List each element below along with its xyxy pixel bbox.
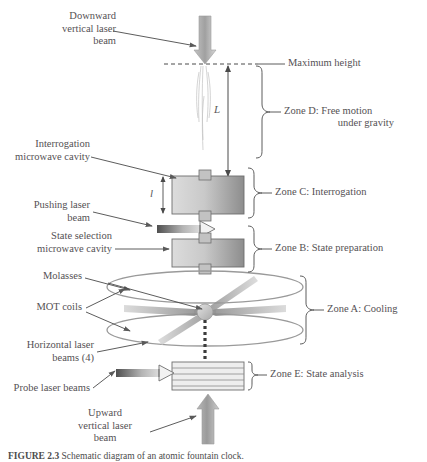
pushing-laser-beam-label: Pushing laser beam <box>8 199 90 224</box>
zone-d-label-line2: under gravity <box>284 117 394 130</box>
atom-trajectory-graphic <box>197 66 211 150</box>
figure-page: Downward vertical laser beam Maximum hei… <box>0 0 427 462</box>
leader-upward-beam <box>150 416 196 432</box>
zone-a-bracket <box>300 276 314 344</box>
leader-interrogation-cavity <box>91 157 176 178</box>
figure-caption: FIGURE 2.3 Schematic diagram of an atomi… <box>8 451 244 461</box>
zone-c-label: Zone C: Interrogation <box>275 186 367 199</box>
mot-coils-label: MOT coils <box>10 301 82 314</box>
downward-laser-beam-label: Downward vertical laser beam <box>12 10 116 48</box>
state-selection-cavity-label: State selection microwave cavity <box>6 230 112 255</box>
downward-laser-beam-graphic <box>194 16 216 64</box>
leader-downward-beam <box>113 31 196 46</box>
molasses-label: Molasses <box>14 270 82 283</box>
state-selection-cavity-graphic <box>172 233 244 274</box>
molasses-ball-graphic <box>197 304 213 320</box>
interrogation-cavity-graphic <box>172 170 244 221</box>
zone-d-label-line1: Zone D: Free motion <box>284 105 372 118</box>
L-dimension-label: L <box>214 103 220 115</box>
zone-b-bracket <box>248 226 262 272</box>
leader-horizontal-beams <box>97 342 148 352</box>
zone-c-bracket <box>248 168 262 218</box>
probe-laser-beam-graphic <box>116 365 174 381</box>
zone-e-bracket <box>248 362 258 390</box>
horizontal-laser-beams-label: Horizontal laser beams (4) <box>2 339 94 364</box>
figure-caption-text: Schematic diagram of an atomic fountain … <box>62 451 244 461</box>
leader-mot-coils-top <box>86 289 125 308</box>
interrogation-cavity-label: Interrogation microwave cavity <box>4 138 90 163</box>
upward-laser-beam-label: Upward vertical laser beam <box>62 407 148 445</box>
zone-d-bracket <box>256 66 270 158</box>
probe-laser-beams-label: Probe laser beams <box>2 382 90 395</box>
upward-laser-beam-graphic <box>197 394 219 444</box>
state-analysis-box-graphic <box>172 362 244 390</box>
l-dimension-label: l <box>150 187 153 199</box>
figure-caption-number: FIGURE 2.3 <box>8 451 59 461</box>
leader-probe-beams <box>93 371 115 388</box>
leader-pushing-beam <box>93 212 152 226</box>
maximum-height-label: Maximum height <box>288 57 361 70</box>
zone-b-label: Zone B: State preparation <box>275 242 383 255</box>
zone-e-label: Zone E: State analysis <box>270 368 364 381</box>
zone-a-label: Zone A: Cooling <box>327 303 398 316</box>
